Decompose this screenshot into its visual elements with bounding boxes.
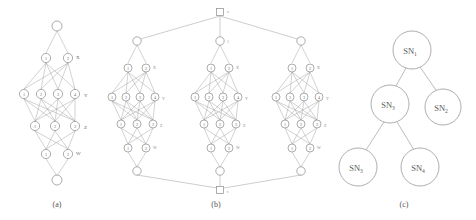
subnet-2-label-y1: 1 bbox=[194, 95, 196, 100]
subnet-3-label-x1: 1 bbox=[291, 66, 293, 71]
layer-label-y-a: Y bbox=[84, 93, 88, 98]
subnet-3-label-y2: 2 bbox=[289, 95, 291, 100]
layer-label-w-a: W bbox=[76, 151, 81, 156]
node-label-x2-a: 2 bbox=[67, 56, 69, 61]
subnet-1-label-w2: 2 bbox=[145, 146, 147, 151]
node-label-z2-a: 2 bbox=[54, 124, 56, 129]
panel-c: SN1 SN3 SN2 SN3 SN4 (c) bbox=[339, 31, 461, 209]
subnet-1-label-x1: 1 bbox=[127, 66, 129, 71]
node-label-x1-a: 1 bbox=[45, 56, 47, 61]
panel-caption-b: (b) bbox=[211, 200, 221, 209]
figure-svg: 1 2 X 1 2 3 4 Y 1 2 3 Z bbox=[0, 0, 476, 220]
tree-edge-sn1-sn5 bbox=[396, 68, 406, 86]
node-label-y3-a: 3 bbox=[57, 92, 59, 97]
subnet-3-label-z2: 2 bbox=[300, 122, 302, 127]
subnet-3-node-sink bbox=[297, 167, 305, 175]
subnet-2-label-y3: 3 bbox=[222, 95, 224, 100]
subnet-1-node-source bbox=[133, 37, 141, 45]
node-source-b bbox=[217, 9, 224, 16]
panel-b-sink-group: t bbox=[137, 175, 301, 194]
subnet-1-label-w1: 1 bbox=[127, 146, 129, 151]
panel-c-nodes: SN1 SN3 SN2 SN3 SN4 bbox=[339, 31, 461, 186]
node-label-z3-a: 3 bbox=[74, 124, 76, 129]
node-source-a bbox=[52, 21, 62, 31]
subnet-1-label-y3: 3 bbox=[139, 95, 141, 100]
subnet-2-layer-label-w: W bbox=[236, 145, 240, 150]
subnet-3-layer-label-w: W bbox=[317, 145, 321, 150]
subnet-3-label-y3: 3 bbox=[303, 95, 305, 100]
subnet-3-label-z3: 3 bbox=[316, 122, 318, 127]
node-label-z1-a: 1 bbox=[34, 124, 36, 129]
subnet-2-layer-label-y: Y bbox=[245, 96, 248, 101]
panel-b-subnet-3: 1 2 X 1 2 3 4 Y 1 2 3 Z bbox=[272, 37, 329, 175]
source-node-label-b: s bbox=[227, 9, 229, 14]
tree-edge-sn1-sn2 bbox=[420, 67, 436, 90]
panel-caption-a: (a) bbox=[53, 200, 62, 209]
subnet-2-label-x2: 2 bbox=[228, 66, 230, 71]
subnet-2-label-z3: 3 bbox=[235, 122, 237, 127]
subnet-2-label-w1: 1 bbox=[210, 146, 212, 151]
tree-edge-sn5-sn3 bbox=[366, 122, 384, 150]
subnet-2-layer-label-x: X bbox=[236, 65, 239, 70]
subnet-1-layer-label-x: X bbox=[153, 65, 156, 70]
subnet-2-node-source bbox=[216, 37, 224, 45]
subnet-2-node-sink bbox=[216, 167, 224, 175]
node-sink-a bbox=[52, 175, 62, 185]
node-label-y2-a: 2 bbox=[40, 92, 42, 97]
subnet-3-layer-label-y: Y bbox=[326, 96, 329, 101]
subnet-2-label-w2: 2 bbox=[228, 146, 230, 151]
subnet-1-label-z3: 3 bbox=[152, 122, 154, 127]
subnet-2-label-z1: 1 bbox=[203, 122, 205, 127]
panel-b: s bbox=[108, 9, 329, 210]
sink-node-label-b: t bbox=[227, 189, 229, 194]
subnet-3-label-y1: 1 bbox=[275, 95, 277, 100]
node-label-y1-a: 1 bbox=[23, 92, 25, 97]
node-label-w1-a: 1 bbox=[45, 152, 47, 157]
panel-a: 1 2 X 1 2 3 4 Y 1 2 3 Z bbox=[19, 21, 88, 209]
panel-b-source-group: s bbox=[137, 9, 301, 41]
subnet-2-source-tag: 1 bbox=[227, 39, 229, 44]
subnet-3-label-z1: 1 bbox=[284, 122, 286, 127]
node-label-w2-a: 2 bbox=[67, 152, 69, 157]
node-sink-b bbox=[217, 187, 224, 194]
subnet-3-label-x2: 2 bbox=[309, 66, 311, 71]
tree-edge-sn5-sn4 bbox=[397, 122, 414, 150]
subnet-1-layer-label-y: Y bbox=[162, 96, 165, 101]
layer-label-x-a: X bbox=[76, 55, 80, 60]
subnet-1-layer-label-z: Z bbox=[160, 123, 163, 128]
subnet-2-layer-label-z: Z bbox=[243, 123, 246, 128]
subnet-1-label-z1: 1 bbox=[120, 122, 122, 127]
subnet-1-label-y2: 2 bbox=[125, 95, 127, 100]
subnet-3-label-w1: 1 bbox=[291, 146, 293, 151]
figure-container: 1 2 X 1 2 3 4 Y 1 2 3 Z bbox=[0, 0, 476, 220]
subnet-1-label-x2: 2 bbox=[145, 66, 147, 71]
subnet-1-label-y1: 1 bbox=[111, 95, 113, 100]
subnet-2-label-y2: 2 bbox=[208, 95, 210, 100]
panel-b-subnet-1: 1 2 X 1 2 3 4 Y 1 2 3 Z bbox=[108, 37, 165, 175]
layer-label-z-a: Z bbox=[84, 125, 87, 130]
subnet-1-label-z2: 2 bbox=[136, 122, 138, 127]
panel-b-subnet-2: 1 1 2 X 1 2 3 4 Y 1 2 3 bbox=[191, 37, 248, 175]
subnet-1-node-sink bbox=[133, 167, 141, 175]
subnet-2-label-z2: 2 bbox=[219, 122, 221, 127]
panel-caption-c: (c) bbox=[400, 200, 409, 209]
subnet-3-layer-label-z: Z bbox=[324, 123, 327, 128]
subnet-3-layer-label-x: X bbox=[317, 65, 320, 70]
subnet-1-layer-label-w: W bbox=[153, 145, 157, 150]
subnet-2-label-x1: 1 bbox=[210, 66, 212, 71]
subnet-3-node-source bbox=[297, 37, 305, 45]
subnet-3-label-w2: 2 bbox=[309, 146, 311, 151]
